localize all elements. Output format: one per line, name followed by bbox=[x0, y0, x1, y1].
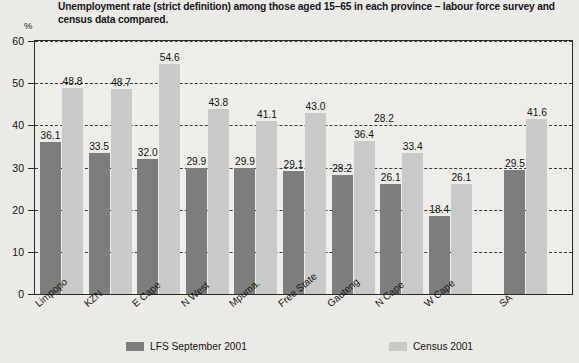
bar-value-label: 29.5 bbox=[505, 158, 525, 169]
legend-swatch-icon-lfs bbox=[126, 342, 144, 351]
bar-group: 26.133.4 bbox=[379, 41, 424, 294]
bar-group: 29.143.0 bbox=[282, 41, 327, 294]
bar-lfs[interactable]: 29.5 bbox=[504, 170, 525, 294]
bar-census[interactable]: 43.0 bbox=[305, 113, 326, 294]
bar-census[interactable]: 48.7 bbox=[111, 89, 132, 294]
bar-census[interactable]: 41.1 bbox=[256, 121, 277, 294]
y-tick-label: 10 bbox=[0, 246, 24, 258]
y-tick-label: 30 bbox=[0, 162, 24, 174]
bar-value-label: 32.0 bbox=[138, 147, 158, 158]
bar-value-label: 41.6 bbox=[527, 107, 547, 118]
bar-value-label: 43.8 bbox=[208, 97, 228, 108]
bar-value-label: 29.1 bbox=[284, 159, 304, 170]
y-tick-label: 60 bbox=[0, 35, 24, 47]
y-tick-mark bbox=[28, 210, 34, 211]
bar-value-label: 36.4 bbox=[354, 129, 374, 140]
bar-value-label: 33.5 bbox=[89, 141, 109, 152]
y-tick-mark bbox=[28, 168, 34, 169]
bar-value-label: 29.9 bbox=[186, 156, 206, 167]
bar-census[interactable]: 43.8 bbox=[208, 109, 229, 294]
bar-group: 28.236.4 bbox=[331, 41, 376, 294]
y-tick-mark bbox=[28, 41, 34, 42]
bar-lfs[interactable]: 32.0 bbox=[137, 159, 158, 294]
bar-value-label: 36.1 bbox=[41, 130, 61, 141]
bar-group: 32.054.6 bbox=[136, 41, 181, 294]
bar-value-label: 48.7 bbox=[111, 77, 131, 88]
bar-census[interactable]: 33.4 bbox=[402, 153, 423, 294]
y-tick-mark bbox=[28, 83, 34, 84]
bar-group: 33.548.7 bbox=[88, 41, 133, 294]
bar-lfs[interactable]: 29.9 bbox=[234, 168, 255, 294]
y-tick-mark bbox=[28, 252, 34, 253]
bar-lfs[interactable]: 36.1 bbox=[40, 142, 61, 294]
bar-value-label: 26.1 bbox=[381, 172, 401, 183]
y-tick-mark bbox=[28, 294, 34, 295]
chart-plot-inner: 36.148.833.548.732.054.629.943.829.941.1… bbox=[35, 41, 572, 294]
y-tick-label: 20 bbox=[0, 204, 24, 216]
chart-legend: LFS September 2001 Census 2001 bbox=[0, 341, 579, 357]
bar-value-label: 43.0 bbox=[306, 101, 326, 112]
bar-census[interactable]: 54.6 bbox=[159, 64, 180, 294]
legend-item-census[interactable]: Census 2001 bbox=[389, 341, 473, 352]
page-title: Unemployment rate (strict definition) am… bbox=[58, 1, 558, 26]
bar-lfs[interactable]: 29.9 bbox=[186, 168, 207, 294]
bar-lfs[interactable]: 28.2 bbox=[332, 175, 353, 294]
legend-label-census: Census 2001 bbox=[413, 341, 473, 352]
bar-group: 18.426.1 bbox=[428, 41, 473, 294]
bar-value-label: 41.1 bbox=[257, 109, 277, 120]
stray-data-label: 28.2 bbox=[374, 113, 394, 124]
bar-value-label: 54.6 bbox=[160, 52, 180, 63]
bar-value-label: 26.1 bbox=[451, 172, 471, 183]
bar-value-label: 28.2 bbox=[332, 163, 352, 174]
legend-swatch-icon-census bbox=[389, 342, 407, 351]
y-tick-label: 50 bbox=[0, 77, 24, 89]
y-tick-label: 40 bbox=[0, 119, 24, 131]
bar-group: 29.941.1 bbox=[233, 41, 278, 294]
legend-label-lfs: LFS September 2001 bbox=[150, 341, 247, 352]
bar-lfs[interactable]: 29.1 bbox=[283, 171, 304, 294]
bar-value-label: 33.4 bbox=[403, 141, 423, 152]
bar-census[interactable]: 48.8 bbox=[62, 88, 83, 294]
bar-group: 36.148.8 bbox=[39, 41, 84, 294]
y-axis-unit-label: % bbox=[24, 20, 32, 31]
bar-lfs[interactable]: 26.1 bbox=[380, 184, 401, 294]
y-tick-mark bbox=[28, 125, 34, 126]
bar-group: 29.943.8 bbox=[185, 41, 230, 294]
y-tick-label: 0 bbox=[0, 288, 24, 300]
legend-item-lfs[interactable]: LFS September 2001 bbox=[126, 341, 247, 352]
bar-census[interactable]: 41.6 bbox=[526, 119, 547, 294]
bar-census[interactable]: 36.4 bbox=[354, 141, 375, 294]
bar-group: 29.541.6 bbox=[503, 41, 548, 294]
bar-value-label: 29.9 bbox=[235, 156, 255, 167]
bar-census[interactable]: 26.1 bbox=[451, 184, 472, 294]
bar-lfs[interactable]: 33.5 bbox=[89, 153, 110, 294]
bar-value-label: 18.4 bbox=[429, 204, 449, 215]
bar-value-label: 48.8 bbox=[63, 76, 83, 87]
chart-plot-area: 36.148.833.548.732.054.629.943.829.941.1… bbox=[34, 40, 573, 295]
